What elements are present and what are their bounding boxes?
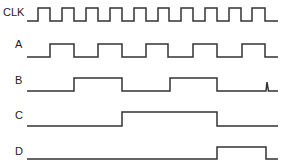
waveform-b [27,78,278,91]
waveform-d [27,147,278,159]
waveform-clk [27,8,278,21]
timing-waveforms [0,0,281,165]
waveform-a [27,44,278,57]
waveform-c [27,112,278,126]
